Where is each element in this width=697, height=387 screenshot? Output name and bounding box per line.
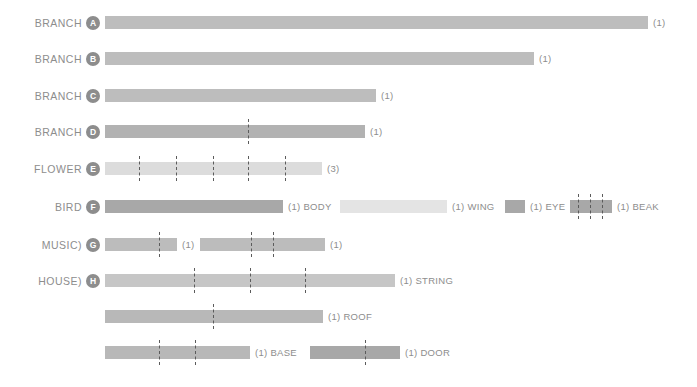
segment-count-label: (1): [539, 52, 552, 65]
segment-count-label: (1): [381, 89, 394, 102]
chart-row: HOUSE)H(1) STRING: [0, 266, 697, 296]
row-label-group: FLOWERE: [0, 154, 104, 184]
divider-dash: [139, 156, 140, 181]
divider-dash: [248, 156, 249, 181]
divider-dash: [159, 340, 160, 365]
segment-count-label: (1) BASE: [255, 346, 297, 359]
divider-dash: [213, 156, 214, 181]
bar-segment: [505, 200, 525, 213]
divider-dash: [194, 268, 195, 293]
chart-row: FLOWERE(3): [0, 154, 697, 184]
bar-fill: [105, 200, 283, 213]
row-label: BRANCH: [35, 81, 82, 111]
row-label-group: MUSIC)G: [0, 230, 104, 260]
bar-segment: [105, 16, 648, 29]
segment-count-label: (1): [330, 238, 343, 251]
divider-dash: [159, 232, 160, 257]
bar-segment: [105, 346, 250, 359]
bar-segment: [105, 125, 365, 138]
bar-fill: [570, 200, 612, 213]
chart-row: (1) BASE(1) DOOR: [0, 338, 697, 368]
divider-dash: [176, 156, 177, 181]
segment-count-label: (1) BEAK: [617, 200, 659, 213]
bar-segment: [105, 310, 323, 323]
divider-dash: [578, 194, 579, 219]
bar-fill: [105, 125, 365, 138]
divider-dash: [195, 340, 196, 365]
bar-segment: [105, 89, 376, 102]
bar-fill: [105, 310, 323, 323]
row-label: BIRD: [55, 192, 82, 222]
bar-fill: [105, 238, 177, 251]
bar-fill: [105, 16, 648, 29]
row-badge: F: [86, 200, 100, 214]
divider-dash: [273, 232, 274, 257]
bar-segment: [105, 162, 322, 175]
row-label-group: BRANCHA: [0, 8, 104, 38]
row-badge: E: [86, 162, 100, 176]
bar-segment: [105, 200, 283, 213]
divider-dash: [365, 340, 366, 365]
divider-dash: [213, 304, 214, 329]
row-label: MUSIC): [42, 230, 82, 260]
segment-count-label: (1): [370, 125, 383, 138]
row-badge: G: [86, 238, 100, 252]
bar-segment: [340, 200, 447, 213]
chart-row: BRANCHA(1): [0, 8, 697, 38]
chart-row: MUSIC)G(1)(1): [0, 230, 697, 260]
segment-count-label: (1) STRING: [400, 274, 453, 287]
divider-dash: [602, 194, 603, 219]
row-label: HOUSE): [38, 266, 82, 296]
row-label: FLOWER: [34, 154, 82, 184]
row-label: BRANCH: [35, 8, 82, 38]
segment-count-label: (3): [327, 162, 340, 175]
segment-count-label: (1) EYE: [530, 200, 565, 213]
bar-fill: [310, 346, 400, 359]
segment-count-label: (1) WING: [452, 200, 495, 213]
bar-fill: [105, 52, 534, 65]
chart-row: BRANCHD(1): [0, 117, 697, 147]
bar-segment: [570, 200, 612, 213]
row-label: BRANCH: [35, 117, 82, 147]
divider-dash: [250, 268, 251, 293]
row-label-group: BRANCHD: [0, 117, 104, 147]
segment-count-label: (1) ROOF: [328, 310, 372, 323]
row-badge: C: [86, 89, 100, 103]
bar-fill: [105, 346, 250, 359]
divider-dash: [285, 156, 286, 181]
divider-dash: [248, 119, 249, 144]
chart-row: BRANCHC(1): [0, 81, 697, 111]
bar-fill: [200, 238, 325, 251]
row-badge: H: [86, 274, 100, 288]
bar-segment: [105, 52, 534, 65]
bar-segment: [105, 238, 177, 251]
bar-segment: [310, 346, 400, 359]
row-label-group: HOUSE)H: [0, 266, 104, 296]
chart-row: BIRDF(1) BODY(1) WING(1) EYE(1) BEAK: [0, 192, 697, 222]
segment-count-label: (1): [653, 16, 666, 29]
bar-segment: [200, 238, 325, 251]
segment-count-label: (1): [182, 238, 195, 251]
divider-dash: [251, 232, 252, 257]
row-badge: D: [86, 125, 100, 139]
span-chart: BRANCHA(1)BRANCHB(1)BRANCHC(1)BRANCHD(1)…: [0, 0, 697, 387]
bar-fill: [505, 200, 525, 213]
row-label-group: BRANCHC: [0, 81, 104, 111]
row-badge: A: [86, 16, 100, 30]
row-label: BRANCH: [35, 44, 82, 74]
bar-fill: [340, 200, 447, 213]
row-badge: B: [86, 52, 100, 66]
segment-count-label: (1) BODY: [288, 200, 332, 213]
segment-count-label: (1) DOOR: [405, 346, 450, 359]
bar-fill: [105, 89, 376, 102]
row-label-group: BIRDF: [0, 192, 104, 222]
bar-segment: [105, 274, 395, 287]
row-label-group: BRANCHB: [0, 44, 104, 74]
divider-dash: [305, 268, 306, 293]
chart-row: BRANCHB(1): [0, 44, 697, 74]
divider-dash: [590, 194, 591, 219]
chart-row: (1) ROOF: [0, 302, 697, 332]
